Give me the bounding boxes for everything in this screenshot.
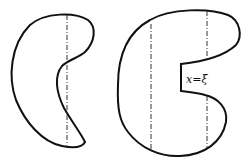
- notch-label: x=ξ: [186, 73, 208, 86]
- diagram: x=ξ: [0, 0, 248, 163]
- left-region: [12, 15, 94, 148]
- right-region-boundary: [118, 10, 240, 156]
- right-region: x=ξ: [118, 10, 240, 156]
- left-region-boundary: [12, 15, 94, 148]
